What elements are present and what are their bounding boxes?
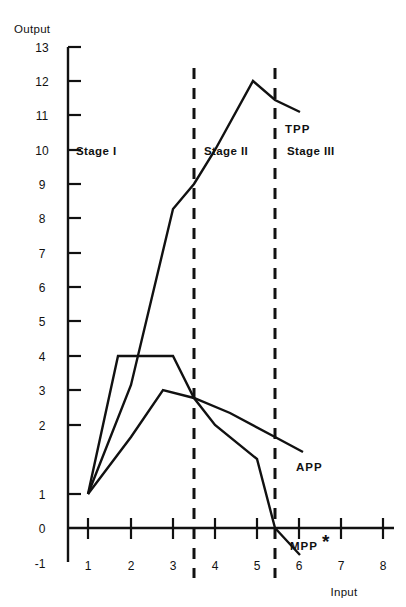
y-label-minus-1: -1 (35, 557, 46, 571)
production-function-chart: Output 13 12 11 10 9 8 (0, 0, 406, 607)
x-label-3: 3 (170, 559, 177, 573)
stage-three-label: Stage III (287, 145, 335, 157)
y-label-4: 4 (39, 350, 46, 364)
y-label-5: 5 (39, 315, 46, 329)
y-label-11: 11 (36, 109, 49, 123)
y-label-0: 0 (39, 522, 46, 536)
tpp-label: TPP (285, 123, 310, 135)
y-label-7: 7 (39, 247, 46, 261)
mpp-asterisk-icon: * (322, 531, 330, 552)
y-label-2: 2 (39, 419, 46, 433)
y-label-13: 13 (35, 41, 49, 55)
y-label-3: 3 (39, 384, 46, 398)
y-label-9: 9 (39, 178, 46, 192)
x-axis-title: Input (330, 586, 358, 598)
stage-two-label: Stage II (204, 145, 248, 157)
y-label-12: 12 (35, 75, 49, 89)
x-label-6: 6 (296, 559, 303, 573)
x-axis-tick-labels: 1 2 3 4 5 6 7 8 (85, 559, 387, 573)
y-label-6: 6 (39, 281, 46, 295)
x-label-2: 2 (128, 559, 135, 573)
y-label-8: 8 (39, 212, 46, 226)
y-label-1: 1 (39, 488, 46, 502)
stage-one-label: Stage I (76, 145, 117, 157)
y-axis-title: Output (14, 23, 51, 35)
y-axis-ticks (68, 47, 81, 494)
x-label-8: 8 (380, 559, 387, 573)
chart-canvas: Output 13 12 11 10 9 8 (0, 0, 406, 607)
mpp-label: MPP (290, 540, 318, 552)
x-label-5: 5 (254, 559, 261, 573)
y-axis-tick-labels: 13 12 11 10 9 8 7 6 5 4 3 2 1 0 -1 (35, 41, 49, 571)
x-label-7: 7 (338, 559, 345, 573)
app-label: APP (296, 461, 323, 473)
x-label-4: 4 (212, 559, 219, 573)
y-label-10: 10 (35, 144, 49, 158)
x-label-1: 1 (85, 559, 92, 573)
